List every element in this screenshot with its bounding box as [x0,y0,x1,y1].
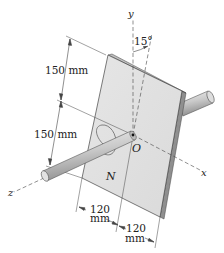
z-axis-label: z [7,187,14,198]
dimension-left-unit: mm [90,212,110,224]
dimension-lower-label: 150 mm [34,128,77,140]
z-axis-line [14,178,44,192]
origin-label: O [132,142,141,155]
dimension-right-unit: mm [125,232,145,244]
angle-label: 15° [134,35,153,47]
y-axis-label: y [127,8,134,19]
diagram-canvas: y 15° 150 mm 150 mm O x z N 120 mm 120 m… [0,0,224,253]
dimension-150mm-lines [48,39,71,165]
moment-label: N [105,170,116,183]
dimension-upper-label: 150 mm [45,64,88,76]
x-axis-label: x [201,167,207,178]
origin-point [132,134,135,137]
